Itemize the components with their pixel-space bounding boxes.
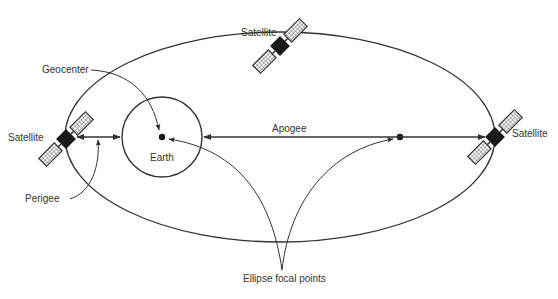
focal-leader-right <box>282 139 393 270</box>
satellite-icon <box>38 111 95 168</box>
earth-label: Earth <box>150 152 174 164</box>
geocenter-dot <box>159 134 165 140</box>
satellite-top-label: Satellite <box>241 27 277 39</box>
satellite-right-label: Satellite <box>512 128 548 140</box>
geocenter-label: Geocenter <box>42 64 89 76</box>
apogee-label: Apogee <box>272 123 306 135</box>
orbit-diagram <box>0 0 558 299</box>
focal-leader-left <box>169 139 282 270</box>
satellite-left-label: Satellite <box>8 132 44 144</box>
perigee-label: Perigee <box>25 193 59 205</box>
focal-points-label: Ellipse focal points <box>243 273 326 285</box>
